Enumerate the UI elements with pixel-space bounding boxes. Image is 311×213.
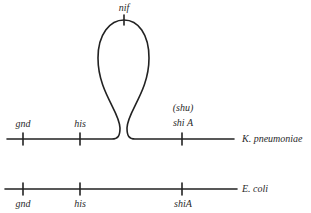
e-gnd-label: gnd <box>16 198 32 209</box>
k-pneumoniae-label: K. pneumoniae <box>241 133 303 144</box>
e-his-label: his <box>74 198 86 209</box>
k-shu-label: (shu) <box>173 102 194 114</box>
k-shia-label: shi A <box>173 117 194 128</box>
e-shia-label: shiA <box>174 198 193 209</box>
chromosome-map-diagram: nif gnd his (shu) shi A K. pneumoniae gn… <box>0 0 311 213</box>
k-his-label: his <box>74 118 86 129</box>
k-gnd-label: gnd <box>16 118 32 129</box>
nif-label: nif <box>119 2 131 13</box>
e-coli-label: E. coli <box>241 183 268 194</box>
nif-loop <box>7 20 234 139</box>
